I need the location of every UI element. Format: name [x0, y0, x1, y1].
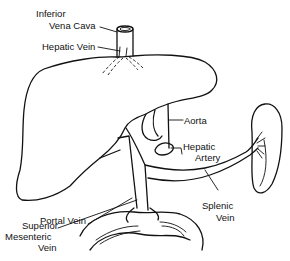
- aorta-shape: [168, 104, 169, 148]
- label-splenic-vein-line1: Splenic: [202, 200, 233, 211]
- label-smv-line2: Mesenteric: [5, 231, 51, 242]
- label-ivc-line1: Inferior: [36, 8, 66, 19]
- label-ivc-line2: Vena Cava: [49, 20, 95, 31]
- spleen-shape: [252, 104, 282, 193]
- label-splenic-vein-line2: Vein: [216, 212, 235, 223]
- label-hepatic-artery-line1: Hepatic: [183, 141, 215, 152]
- anatomy-diagram: Inferior Vena Cava Hepatic Vein Aorta He…: [0, 0, 290, 261]
- label-smv-line3: Vein: [38, 242, 57, 253]
- portal-vein-shape: [118, 136, 137, 208]
- liver-shape: [16, 55, 216, 201]
- label-hepatic-vein: Hepatic Vein: [42, 41, 95, 52]
- label-aorta: Aorta: [184, 115, 207, 126]
- label-smv-line1: Superior: [22, 220, 58, 231]
- hepatic-veins-shape: [102, 47, 143, 75]
- label-hepatic-artery-line2: Artery: [195, 152, 220, 163]
- hepatic-artery-shape: [155, 143, 173, 155]
- leader-lines: [58, 27, 218, 228]
